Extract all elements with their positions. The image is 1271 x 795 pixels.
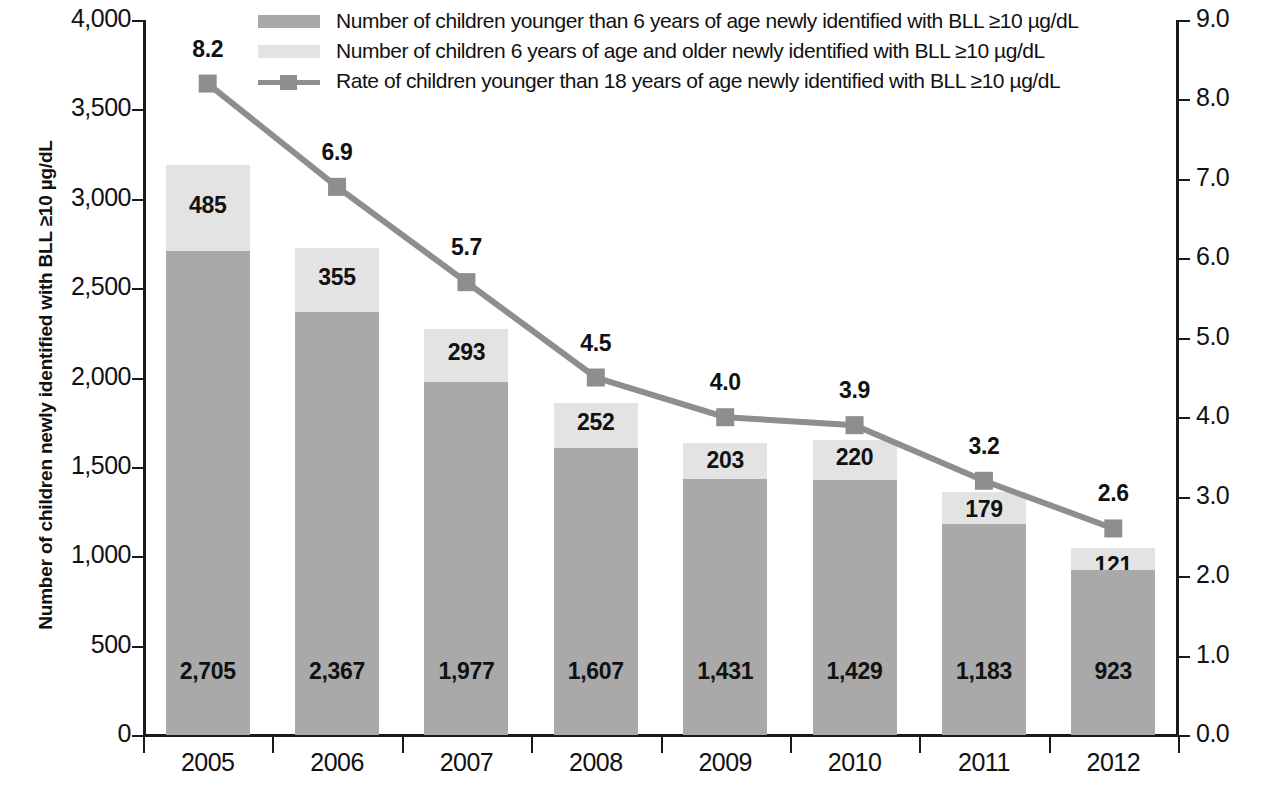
x-axis-label: 2006 — [267, 748, 407, 777]
bar-column: 3552,367 — [295, 248, 379, 735]
y-axis-left-tick — [132, 467, 144, 469]
y-axis-left-tick — [132, 556, 144, 558]
y-axis-right-tick-label: 9.0 — [1196, 4, 1271, 33]
bar-value-label-younger-than-6: 1,429 — [813, 658, 897, 685]
rate-value-label: 4.0 — [680, 369, 770, 396]
x-axis-label: 2012 — [1043, 748, 1183, 777]
legend-item-rate: Rate of children younger than 18 years o… — [258, 66, 1178, 96]
rate-line-marker — [457, 273, 475, 291]
y-axis-right-tick — [1178, 179, 1190, 181]
rate-value-label: 5.7 — [421, 234, 511, 261]
y-axis-right-tick — [1178, 338, 1190, 340]
bar-column: 1791,183 — [942, 492, 1026, 735]
y-axis-right-tick-label: 6.0 — [1196, 242, 1271, 271]
y-axis-left-tick-label: 3,000 — [11, 183, 131, 212]
x-axis-label: 2010 — [785, 748, 925, 777]
y-axis-right-tick-label: 1.0 — [1196, 640, 1271, 669]
y-axis-right-tick — [1178, 417, 1190, 419]
rate-value-label: 2.6 — [1068, 480, 1158, 507]
rate-value-label: 3.2 — [939, 433, 1029, 460]
rate-line-marker — [716, 408, 734, 426]
y-axis-right-tick-label: 7.0 — [1196, 163, 1271, 192]
y-axis-left-tick-label: 500 — [11, 630, 131, 659]
bar-value-label-younger-than-6: 1,183 — [942, 658, 1026, 685]
bar-segment-6-and-older: 179 — [942, 492, 1026, 524]
y-axis-left-tick-label: 3,500 — [11, 93, 131, 122]
bar-value-label-younger-than-6: 1,431 — [683, 658, 767, 685]
bar-segment-6-and-older: 293 — [424, 329, 508, 381]
x-axis-label: 2005 — [138, 748, 278, 777]
bar-column: 4852,705 — [166, 165, 250, 735]
bar-column: 121923 — [1071, 548, 1155, 735]
bar-segment-younger-than-6: 1,429 — [813, 480, 897, 735]
y-axis-right-tick — [1178, 20, 1190, 22]
y-axis-left-tick-label: 2,500 — [11, 272, 131, 301]
bar-segment-younger-than-6: 1,607 — [554, 448, 638, 735]
rate-value-label: 3.9 — [810, 377, 900, 404]
bar-value-label-6-and-older: 179 — [942, 496, 1026, 523]
y-axis-right-tick-label: 2.0 — [1196, 560, 1271, 589]
legend-item-younger-than-6: Number of children younger than 6 years … — [258, 6, 1178, 36]
y-axis-left-tick-label: 4,000 — [11, 4, 131, 33]
y-axis-right-tick-label: 4.0 — [1196, 401, 1271, 430]
rate-line-marker — [1104, 519, 1122, 537]
y-axis-right-tick-label: 0.0 — [1196, 719, 1271, 748]
y-axis-right-tick — [1178, 258, 1190, 260]
bar-value-label-younger-than-6: 923 — [1071, 658, 1155, 685]
bar-value-label-younger-than-6: 1,977 — [424, 658, 508, 685]
y-axis-right-tick — [1178, 656, 1190, 658]
y-axis-right-tick-label: 8.0 — [1196, 83, 1271, 112]
y-axis-left-tick-label: 2,000 — [11, 362, 131, 391]
x-axis-label: 2011 — [914, 748, 1054, 777]
rate-value-label: 6.9 — [292, 139, 382, 166]
bar-column: 2201,429 — [813, 440, 897, 735]
y-axis-right-tick-label: 5.0 — [1196, 322, 1271, 351]
legend-swatch-line-marker-icon — [258, 75, 320, 88]
rate-line-marker — [199, 75, 217, 93]
bar-value-label-6-and-older: 203 — [683, 447, 767, 474]
bar-segment-6-and-older: 485 — [166, 165, 250, 252]
bar-value-label-younger-than-6: 2,705 — [166, 658, 250, 685]
legend-swatch-bar-dark-icon — [258, 15, 320, 28]
legend-item-6-and-older: Number of children 6 years of age and ol… — [258, 36, 1178, 66]
bar-segment-6-and-older: 121 — [1071, 548, 1155, 570]
y-axis-left-tick-label: 1,000 — [11, 540, 131, 569]
legend-label-rate: Rate of children younger than 18 years o… — [336, 69, 1060, 93]
bar-value-label-6-and-older: 293 — [424, 339, 508, 366]
y-axis-left-tick-label: 1,500 — [11, 451, 131, 480]
x-axis-label: 2007 — [396, 748, 536, 777]
x-axis-label: 2009 — [655, 748, 795, 777]
rate-line-marker — [846, 416, 864, 434]
legend-swatch-bar-light-icon — [258, 45, 320, 58]
y-axis-left-tick — [132, 109, 144, 111]
y-axis-left-tick — [132, 199, 144, 201]
bar-value-label-6-and-older: 485 — [166, 192, 250, 219]
rate-value-label: 4.5 — [551, 330, 641, 357]
bar-value-label-6-and-older: 220 — [813, 444, 897, 471]
bar-segment-younger-than-6: 2,705 — [166, 251, 250, 735]
y-axis-right-line — [1176, 20, 1179, 737]
y-axis-left-tick — [132, 20, 144, 22]
bar-column: 2031,431 — [683, 443, 767, 735]
rate-value-label: 8.2 — [163, 36, 253, 63]
bar-segment-6-and-older: 252 — [554, 403, 638, 448]
y-axis-left-tick — [132, 646, 144, 648]
bar-segment-younger-than-6: 2,367 — [295, 312, 379, 735]
lead-poisoning-chart: Number of children newly identified with… — [0, 0, 1271, 795]
x-axis-label: 2008 — [526, 748, 666, 777]
bar-segment-6-and-older: 203 — [683, 443, 767, 479]
y-axis-left-tick — [132, 378, 144, 380]
bar-segment-younger-than-6: 923 — [1071, 570, 1155, 735]
y-axis-right-tick — [1178, 497, 1190, 499]
legend-label-younger-than-6: Number of children younger than 6 years … — [336, 9, 1078, 33]
bar-segment-6-and-older: 355 — [295, 248, 379, 311]
rate-line-marker — [328, 178, 346, 196]
bar-segment-6-and-older: 220 — [813, 440, 897, 479]
y-axis-right-tick — [1178, 99, 1190, 101]
bar-segment-younger-than-6: 1,977 — [424, 382, 508, 735]
bar-segment-younger-than-6: 1,431 — [683, 479, 767, 735]
chart-legend: Number of children younger than 6 years … — [258, 6, 1178, 96]
bar-column: 2521,607 — [554, 403, 638, 735]
y-axis-right-tick — [1178, 576, 1190, 578]
bar-value-label-6-and-older: 252 — [554, 409, 638, 436]
